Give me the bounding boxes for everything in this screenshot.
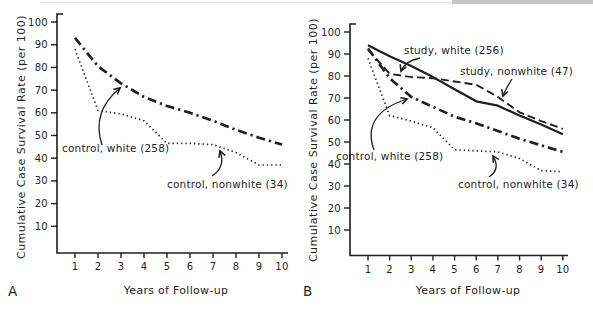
y-tick-label: 60 [35,107,48,118]
annotation-control-nonwhite-label: control, nonwhite (34) [458,178,579,190]
y-tick-label: 90 [328,49,341,60]
x-tick-label: 9 [538,264,545,275]
y-tick-label: 80 [35,62,48,73]
annotation-control-nonwhite-arrow [212,151,222,176]
y-tick-label: 100 [28,17,48,28]
x-axis-title: Years of Follow-up [415,284,520,297]
x-tick-label: 6 [473,264,480,275]
y-tick-label: 40 [35,153,48,164]
annotation-study-nonwhite-label: study, nonwhite (47) [460,65,573,77]
y-tick-label: 80 [328,71,341,82]
y-tick-label: 10 [328,225,341,236]
y-tick-label: 20 [328,203,341,214]
x-tick-label: 4 [430,264,437,275]
annotation-control-white-arrow [371,99,407,150]
panel-A: 10203040506070809010012345678910control,… [8,14,289,299]
annotation-control-nonwhite-arrow [489,156,496,177]
survival-rate-figure: 10203040506070809010012345678910control,… [0,0,593,309]
x-axis-title: Years of Follow-up [123,284,228,297]
y-tick-label: 20 [35,198,48,209]
y-tick-label: 50 [328,137,341,148]
y-tick-label: 70 [328,93,341,104]
y-tick-label: 10 [35,221,48,232]
series-study-white-line [368,45,563,134]
y-tick-label: 70 [35,85,48,96]
panel-letter: B [303,283,312,299]
axes [57,14,288,253]
x-tick-label: 1 [72,261,79,272]
x-tick-label: 2 [386,264,393,275]
annotation-control-nonwhite-label: control, nonwhite (34) [167,178,288,190]
y-axis-title: Cumulative Case Survival Rate (per 100) [307,18,320,262]
x-tick-label: 8 [233,261,240,272]
y-tick-label: 30 [328,181,341,192]
y-tick-label: 60 [328,115,341,126]
annotation-control-white-label: control, white (258) [62,142,169,154]
y-tick-label: 30 [35,175,48,186]
panel-letter: A [8,283,18,299]
annotation-study-white-label: study, white (256) [404,44,504,56]
x-tick-label: 6 [187,261,194,272]
x-tick-label: 5 [164,261,171,272]
y-tick-label: 50 [35,130,48,141]
x-tick-label: 3 [118,261,125,272]
x-tick-label: 9 [256,261,263,272]
x-tick-label: 5 [451,264,458,275]
series-control-white-line [368,49,563,152]
panel-B: 10203040506070809010012345678910study, w… [303,18,579,299]
x-tick-label: 2 [95,261,102,272]
annotation-control-white-arrow [99,88,120,145]
axes [350,24,568,256]
scanned-figure-page: 10203040506070809010012345678910control,… [0,0,593,309]
x-tick-label: 3 [408,264,415,275]
x-tick-label: 7 [210,261,217,272]
x-tick-label: 10 [275,261,288,272]
x-tick-label: 8 [516,264,523,275]
y-tick-label: 90 [35,39,48,50]
y-tick-label: 100 [321,27,341,38]
x-tick-label: 10 [556,264,569,275]
x-tick-label: 4 [141,261,148,272]
x-tick-label: 7 [495,264,502,275]
x-tick-label: 1 [365,264,372,275]
annotation-study-nonwhite-arrow [503,79,512,96]
annotation-control-white-label: control, white (258) [336,150,443,162]
y-axis-title: Cumulative Case Survival Rate (per 100) [15,15,28,259]
series-control-white-line [75,38,282,145]
